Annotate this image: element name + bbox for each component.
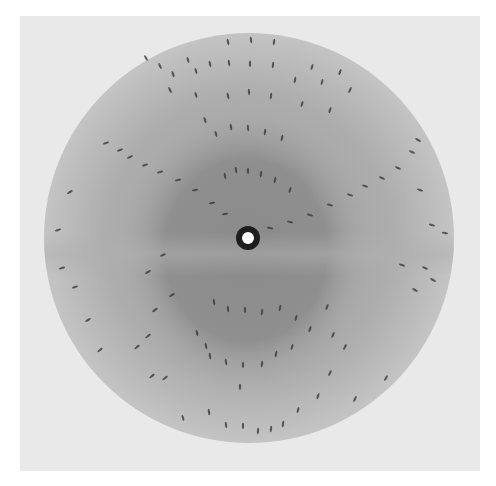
- diffraction-spot: [239, 384, 241, 390]
- beam-stop-center: [242, 232, 254, 244]
- diffraction-spot: [247, 168, 249, 174]
- diffraction-image: [0, 0, 496, 486]
- diffraction-spot: [244, 307, 246, 313]
- diffraction-spot: [249, 61, 251, 67]
- diffraction-spot: [242, 362, 244, 368]
- diffraction-spot: [242, 423, 244, 429]
